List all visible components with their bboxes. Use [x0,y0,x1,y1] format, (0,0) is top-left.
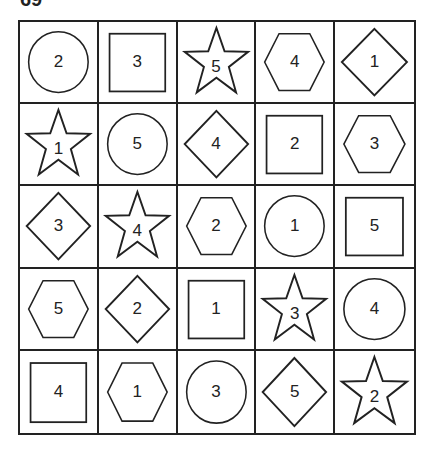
grid-cell-r3-c2[interactable]: 4 [99,186,178,268]
grid-cell-r1-c2[interactable]: 3 [99,22,178,104]
cell-number: 1 [256,216,333,236]
cell-number: 3 [20,216,97,236]
grid-cell-r4-c3[interactable]: 1 [178,269,257,351]
grid-cell-r5-c1[interactable]: 4 [20,351,99,433]
grid-cell-r4-c4[interactable]: 3 [256,269,335,351]
grid-cell-r4-c1[interactable]: 5 [20,269,99,351]
grid-cell-r4-c5[interactable]: 4 [335,269,414,351]
cell-number: 5 [20,299,97,319]
puzzle-number-label: 69 [20,0,42,11]
grid-cell-r2-c2[interactable]: 5 [99,104,178,186]
grid-cell-r1-c4[interactable]: 4 [256,22,335,104]
grid-cell-r3-c1[interactable]: 3 [20,186,99,268]
grid-cell-r5-c2[interactable]: 1 [99,351,178,433]
cell-number: 4 [178,134,255,154]
cell-number: 1 [335,52,414,72]
cell-number: 3 [256,304,333,324]
cell-number: 1 [99,382,176,402]
cell-number: 5 [335,216,414,236]
grid-cell-r1-c3[interactable]: 5 [178,22,257,104]
cell-number: 2 [256,134,333,154]
grid-cell-r1-c1[interactable]: 2 [20,22,99,104]
cell-number: 4 [20,382,97,402]
shape-number-grid: 2354115423342155213441352 [18,20,416,435]
grid-cell-r4-c2[interactable]: 2 [99,269,178,351]
grid-cell-r5-c5[interactable]: 2 [335,351,414,433]
cell-number: 1 [178,299,255,319]
cell-number: 4 [256,52,333,72]
grid-cell-r2-c1[interactable]: 1 [20,104,99,186]
grid-cell-r1-c5[interactable]: 1 [335,22,414,104]
cell-number: 1 [20,139,97,159]
cell-number: 2 [178,216,255,236]
grid-cell-r2-c5[interactable]: 3 [335,104,414,186]
cell-number: 5 [99,134,176,154]
cell-number: 4 [99,221,176,241]
grid-cell-r3-c5[interactable]: 5 [335,186,414,268]
grid-cell-r3-c4[interactable]: 1 [256,186,335,268]
cell-number: 3 [178,382,255,402]
cell-number: 2 [20,52,97,72]
grid-cell-r2-c4[interactable]: 2 [256,104,335,186]
cell-number: 2 [335,387,414,407]
cell-number: 3 [99,52,176,72]
cell-number: 4 [335,299,414,319]
cell-number: 2 [99,299,176,319]
cell-number: 5 [256,382,333,402]
grid-cell-r5-c3[interactable]: 3 [178,351,257,433]
cell-number: 3 [335,134,414,154]
grid-cell-r3-c3[interactable]: 2 [178,186,257,268]
cell-number: 5 [178,57,255,77]
grid-cell-r5-c4[interactable]: 5 [256,351,335,433]
grid-cell-r2-c3[interactable]: 4 [178,104,257,186]
